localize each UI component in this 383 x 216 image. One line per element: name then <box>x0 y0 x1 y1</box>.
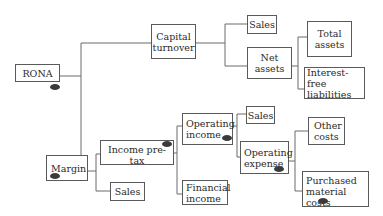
node-financial-income: Financial income <box>182 180 228 205</box>
node-label: income <box>186 129 221 140</box>
marker-purchased-material-costs-icon <box>318 198 328 204</box>
node-label: turnover <box>153 42 195 53</box>
node-label: costs <box>314 131 339 142</box>
node-label: Capital <box>156 31 191 42</box>
node-label: material costs <box>306 186 365 208</box>
node-interest-free-liabilities: Interest-free liabilities <box>304 67 365 99</box>
node-label: Net <box>261 52 279 63</box>
node-rona: RONA <box>15 64 60 82</box>
marker-margin-icon <box>50 173 60 179</box>
node-sales-top: Sales <box>247 15 277 34</box>
node-purchased-material-costs: Purchased material costs <box>302 171 369 207</box>
node-label: Total <box>318 28 342 39</box>
node-label: Sales <box>115 186 141 197</box>
node-label: income <box>186 193 221 204</box>
node-label: Other <box>314 120 342 131</box>
node-label: Financial <box>186 182 231 193</box>
node-capital-turnover: Capital turnover <box>151 24 196 59</box>
node-sales-bottom: Sales <box>110 182 145 201</box>
node-label: Income pre-tax <box>104 144 170 166</box>
node-label: Interest-free <box>307 67 361 89</box>
node-label: assets <box>255 63 285 74</box>
node-label: assets <box>315 39 345 50</box>
node-label: Sales <box>249 19 275 30</box>
node-label: RONA <box>22 68 52 79</box>
node-other-costs: Other costs <box>308 117 345 145</box>
node-sales-mid: Sales <box>246 106 275 124</box>
marker-operating-income-icon <box>222 135 232 141</box>
marker-income-pre-tax-icon <box>162 141 172 147</box>
node-label: Sales <box>248 110 274 121</box>
node-total-assets: Total assets <box>307 21 352 57</box>
marker-rona-icon <box>50 84 60 90</box>
marker-operating-expense-icon <box>274 166 284 172</box>
node-label: Margin <box>51 163 86 174</box>
node-net-assets: Net assets <box>247 47 292 79</box>
node-label: liabilities <box>307 89 351 100</box>
node-label: Operating <box>244 147 293 158</box>
node-label: Operating <box>186 118 235 129</box>
node-label: Purchased <box>306 175 357 186</box>
